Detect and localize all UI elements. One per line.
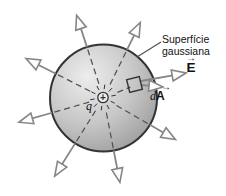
field-diagram-svg: +	[0, 0, 226, 196]
leader-line	[137, 42, 161, 57]
da-letters: dA	[150, 90, 165, 103]
field-arrowhead	[19, 113, 34, 124]
field-arrowhead	[55, 161, 67, 176]
figure-canvas: + Superfície gaussiana → E → dA q	[0, 0, 226, 196]
field-line	[37, 64, 56, 74]
charge-ray	[101, 106, 102, 110]
field-line	[61, 143, 75, 165]
e-field-label: → E	[186, 55, 196, 75]
da-A-letter: A	[156, 89, 165, 103]
area-element-label: → dA	[150, 84, 171, 103]
field-arrowhead	[112, 168, 123, 183]
e-field-arrowhead	[171, 70, 186, 81]
field-arrowhead	[129, 23, 140, 38]
field-line	[30, 113, 52, 119]
field-line	[80, 27, 87, 47]
field-arrowhead	[161, 128, 176, 140]
charge-ray	[104, 85, 105, 89]
field-arrowhead	[26, 59, 41, 70]
field-line	[114, 151, 118, 171]
plus-charge-icon: +	[100, 92, 106, 103]
field-arrowhead	[76, 15, 86, 30]
e-letter: E	[186, 61, 195, 75]
charge-label: q	[86, 100, 92, 112]
